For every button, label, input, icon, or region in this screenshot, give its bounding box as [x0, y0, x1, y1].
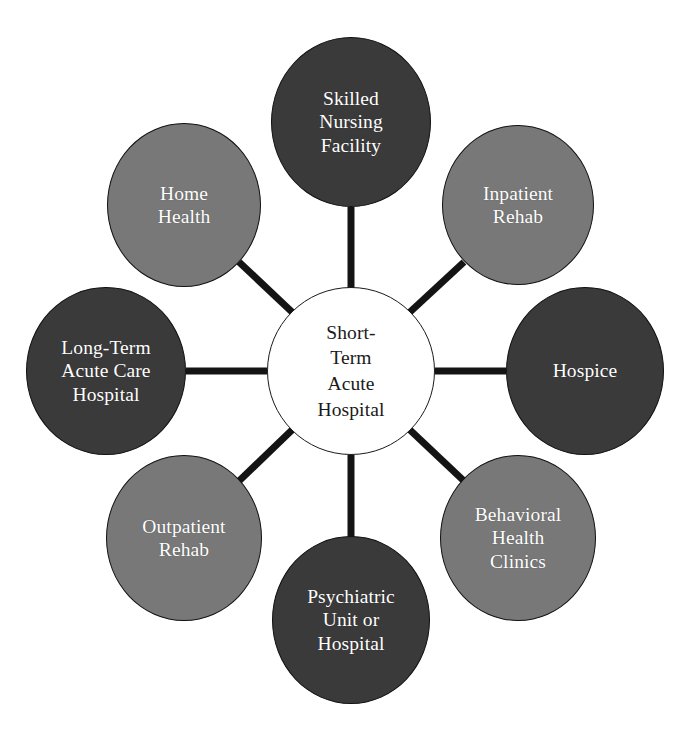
node-label-short-term-acute-hospital: Short- Term Acute Hospital: [318, 320, 385, 423]
node-label-long-term-acute-care-hospital: Long-Term Acute Care Hospital: [61, 336, 150, 406]
node-label-psychiatric-unit-or-hospital: Psychiatric Unit or Hospital: [307, 585, 395, 655]
node-hospice[interactable]: Hospice: [506, 287, 664, 455]
spoke-home-health: [239, 262, 292, 312]
spoke-behavioral-health-clinics: [410, 430, 464, 481]
node-behavioral-health-clinics[interactable]: Behavioral Health Clinics: [440, 455, 596, 621]
node-label-behavioral-health-clinics: Behavioral Health Clinics: [475, 503, 562, 573]
node-label-inpatient-rehab: Inpatient Rehab: [483, 182, 553, 228]
node-home-health[interactable]: Home Health: [107, 123, 261, 287]
spoke-outpatient-rehab: [239, 430, 292, 481]
node-psychiatric-unit-or-hospital[interactable]: Psychiatric Unit or Hospital: [272, 536, 430, 704]
node-label-skilled-nursing-facility: Skilled Nursing Facility: [319, 87, 383, 157]
node-long-term-acute-care-hospital[interactable]: Long-Term Acute Care Hospital: [26, 287, 186, 455]
node-label-home-health: Home Health: [158, 182, 211, 228]
node-label-hospice: Hospice: [553, 359, 618, 382]
node-skilled-nursing-facility[interactable]: Skilled Nursing Facility: [271, 37, 431, 207]
node-inpatient-rehab[interactable]: Inpatient Rehab: [442, 125, 594, 285]
node-label-outpatient-rehab: Outpatient Rehab: [142, 515, 225, 561]
node-outpatient-rehab[interactable]: Outpatient Rehab: [106, 455, 262, 621]
spoke-inpatient-rehab: [410, 262, 464, 312]
hub-and-spoke-diagram: Skilled Nursing FacilityInpatient RehabH…: [0, 0, 700, 731]
node-short-term-acute-hospital[interactable]: Short- Term Acute Hospital: [267, 287, 435, 455]
